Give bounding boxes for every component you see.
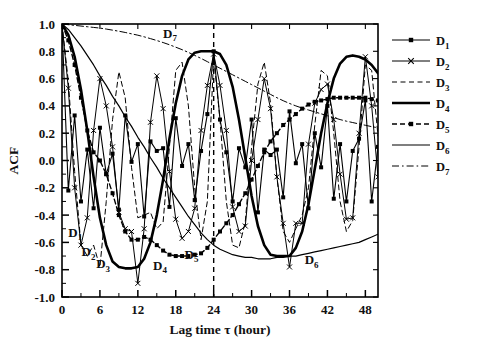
- x-tick-label: 36: [283, 302, 297, 317]
- data-point: [111, 152, 115, 156]
- data-point: [338, 96, 342, 100]
- data-point: [275, 131, 279, 135]
- data-point: [117, 213, 121, 217]
- legend-marker: [409, 38, 413, 42]
- data-point: [161, 146, 165, 150]
- data-point: [370, 199, 374, 203]
- legend-marker: [409, 122, 413, 126]
- y-tick-label: -0.4: [34, 208, 55, 223]
- data-point: [370, 97, 374, 101]
- data-point: [288, 118, 292, 122]
- data-point: [269, 139, 273, 143]
- data-point: [351, 149, 355, 153]
- data-point: [92, 206, 96, 210]
- data-point: [136, 238, 140, 242]
- x-tick-label: 48: [359, 302, 373, 317]
- y-axis-label: ACF: [6, 147, 21, 175]
- y-tick-label: -1.0: [34, 290, 55, 305]
- data-point: [281, 123, 285, 127]
- data-point: [92, 150, 96, 154]
- y-tick-label: 0.8: [39, 44, 56, 59]
- data-point: [104, 172, 108, 176]
- data-point: [155, 243, 159, 247]
- data-point: [180, 164, 184, 168]
- data-point: [300, 142, 304, 146]
- x-axis-label: Lag time τ (hour): [169, 322, 270, 337]
- data-point: [250, 118, 254, 122]
- y-tick-label: -0.2: [34, 180, 55, 195]
- data-point: [142, 235, 146, 239]
- data-point: [306, 103, 310, 107]
- data-point: [363, 96, 367, 100]
- data-point: [319, 165, 323, 169]
- x-tick-label: 6: [97, 302, 104, 317]
- data-point: [186, 142, 190, 146]
- x-tick-label: 30: [245, 302, 258, 317]
- data-point: [167, 253, 171, 257]
- data-point: [351, 96, 355, 100]
- data-point: [250, 178, 254, 182]
- data-point: [357, 96, 361, 100]
- data-point: [205, 112, 209, 116]
- data-point: [212, 238, 216, 242]
- x-tick-label: 24: [207, 302, 221, 317]
- data-point: [344, 199, 348, 203]
- y-tick-label: 0.0: [39, 153, 55, 168]
- y-tick-label: 1.0: [39, 17, 55, 32]
- data-point: [180, 254, 184, 258]
- data-point: [98, 126, 102, 130]
- data-point: [313, 100, 317, 104]
- data-point: [66, 189, 70, 193]
- data-point: [174, 254, 178, 258]
- data-point: [155, 149, 159, 153]
- acf-chart-svg: -1.0-0.8-0.6-0.4-0.20.00.20.40.60.81.0 0…: [0, 0, 483, 347]
- chart-figure: -1.0-0.8-0.6-0.4-0.20.00.20.40.60.81.0 0…: [0, 0, 483, 347]
- data-point: [161, 249, 165, 253]
- data-point: [199, 251, 203, 255]
- y-tick-label: 0.2: [39, 126, 55, 141]
- data-point: [224, 221, 228, 225]
- data-point: [231, 213, 235, 217]
- data-point: [256, 164, 260, 168]
- data-point: [111, 191, 115, 195]
- data-point: [79, 199, 83, 203]
- data-point: [262, 150, 266, 154]
- data-point: [294, 161, 298, 165]
- data-point: [123, 229, 127, 233]
- x-tick-label: 42: [321, 302, 334, 317]
- x-tick-label: 12: [131, 302, 144, 317]
- y-tick-label: -0.8: [34, 262, 55, 277]
- data-point: [344, 96, 348, 100]
- data-point: [79, 96, 83, 100]
- data-point: [319, 98, 323, 102]
- data-point: [136, 142, 140, 146]
- data-point: [167, 205, 171, 209]
- data-point: [218, 229, 222, 233]
- x-tick-label: 18: [169, 302, 183, 317]
- y-tick-label: -0.6: [34, 235, 55, 250]
- data-point: [73, 113, 77, 117]
- data-point: [66, 38, 70, 42]
- data-point: [338, 142, 342, 146]
- data-point: [148, 238, 152, 242]
- data-point: [98, 159, 102, 163]
- data-point: [332, 197, 336, 201]
- x-tick-label: 0: [59, 302, 66, 317]
- data-point: [237, 202, 241, 206]
- data-point: [237, 146, 241, 150]
- data-point: [294, 112, 298, 116]
- y-tick-label: 0.6: [39, 71, 56, 86]
- data-point: [325, 97, 329, 101]
- data-point: [130, 238, 134, 242]
- data-point: [288, 109, 292, 113]
- data-point: [269, 153, 273, 157]
- data-point: [243, 191, 247, 195]
- data-point: [205, 246, 209, 250]
- data-point: [73, 63, 77, 67]
- data-point: [275, 148, 279, 152]
- data-point: [281, 195, 285, 199]
- data-point: [85, 128, 89, 132]
- data-point: [332, 96, 336, 100]
- y-tick-label: 0.4: [39, 98, 56, 113]
